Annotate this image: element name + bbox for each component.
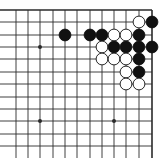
white-stone <box>96 41 108 53</box>
black-stone <box>133 53 145 65</box>
black-stone <box>146 16 158 28</box>
white-stone <box>120 53 132 65</box>
stones <box>59 16 158 90</box>
black-stone <box>84 29 96 41</box>
white-stone <box>133 16 145 28</box>
black-stone <box>120 41 132 53</box>
black-stone <box>108 41 120 53</box>
white-stone <box>96 53 108 65</box>
black-stone <box>133 29 145 41</box>
black-stone <box>146 41 158 53</box>
black-stone <box>133 66 145 78</box>
white-stone <box>120 78 132 90</box>
go-board <box>0 0 163 158</box>
white-stone <box>133 78 145 90</box>
star-point <box>38 45 42 49</box>
black-stone <box>59 29 71 41</box>
white-stone <box>108 53 120 65</box>
star-point <box>112 119 116 123</box>
white-stone <box>120 66 132 78</box>
black-stone <box>96 29 108 41</box>
white-stone <box>108 29 120 41</box>
star-point <box>38 119 42 123</box>
black-stone <box>133 41 145 53</box>
white-stone <box>120 29 132 41</box>
